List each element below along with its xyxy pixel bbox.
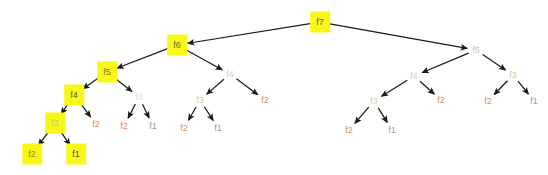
tree-edge [204,107,213,121]
tree-edge [128,104,135,118]
tree-node-f1: f1 [386,124,398,137]
tree-node-f7: f7 [310,12,330,33]
tree-edge [142,104,149,118]
tree-node-f3: f3 [507,69,519,82]
tree-node-f2: f2 [22,144,42,165]
tree-edge [518,81,528,94]
tree-node-f2: f2 [178,122,190,135]
tree-node-f3: f3 [368,95,380,108]
tree-node-f2: f2 [118,120,130,133]
tree-node-f4: f4 [64,85,84,106]
tree-node-f2: f2 [343,124,355,137]
recursion-tree-diagram: f7f6f5f5f4f4f3f4f3f3f2f3f2f2f1f3f2f2f1f2… [0,0,548,175]
tree-node-f5: f5 [97,62,117,83]
tree-node-f6: f6 [167,35,187,56]
tree-node-f1: f1 [147,120,159,133]
tree-edge [483,54,506,69]
tree-node-f4: f4 [224,68,236,81]
tree-node-f3: f3 [194,94,206,107]
tree-edge [494,81,507,95]
tree-edge [236,79,257,95]
tree-edge [186,50,222,70]
tree-node-f1: f1 [212,122,224,135]
tree-node-f2: f2 [259,94,271,107]
tree-node-f3: f3 [45,113,65,134]
tree-edge [117,49,167,68]
tree-edge [188,24,310,44]
tree-edge [188,107,196,120]
tree-edge [382,80,408,96]
tree-node-f5: f5 [470,44,482,57]
tree-edge [422,53,468,72]
tree-edge [378,108,387,123]
tree-edge [207,79,224,94]
tree-edge [115,78,132,91]
tree-node-f2: f2 [482,95,494,108]
tree-edge [420,81,434,94]
tree-node-f2: f2 [90,118,102,131]
tree-edge [355,107,369,123]
tree-node-f1: f1 [66,144,86,165]
tree-edge [330,24,467,49]
tree-node-f2: f2 [435,94,447,107]
tree-node-f3: f3 [133,91,145,104]
tree-node-f1: f1 [528,95,540,108]
tree-node-f4: f4 [408,70,420,83]
